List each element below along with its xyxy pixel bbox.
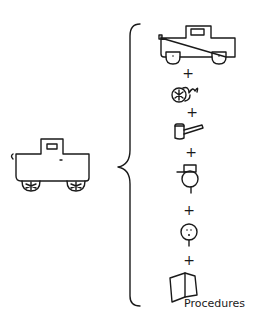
procedures-label: Procedures (184, 297, 245, 310)
brace (118, 24, 140, 306)
spring-icon (172, 88, 198, 102)
hammer-icon (175, 124, 203, 139)
plus-sign: + (185, 144, 197, 160)
worker-icon (177, 165, 198, 193)
plus-sign: + (186, 104, 198, 120)
plus-sign: + (182, 65, 194, 81)
truck-icon (12, 139, 90, 191)
plus-sign: + (183, 252, 195, 268)
truck-body-icon (159, 26, 235, 64)
diagram-canvas: + + + + + Procedures (0, 0, 269, 324)
person-icon (181, 224, 197, 246)
plus-sign: + (183, 202, 195, 218)
